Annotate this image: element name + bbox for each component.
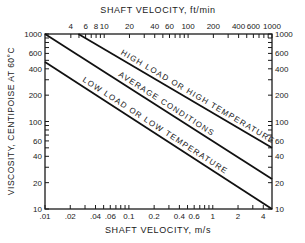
y-tick-label: 20 (33, 179, 42, 188)
y2-tick-label: 10 (275, 205, 284, 214)
x2-tick-label: 100 (181, 22, 195, 31)
x2-tick-label: 20 (125, 22, 134, 31)
x2-tick-label: 200 (207, 22, 221, 31)
x2-tick-label: 600 (247, 22, 261, 31)
y2-tick-label: 1000 (275, 30, 293, 39)
y-axis-title: VISCOSITY, CENTIPOISE AT 60°C (6, 47, 16, 195)
series-labels: HIGH LOAD OR HIGH TEMPERATUREAVERAGE CON… (81, 48, 277, 176)
x2-tick-label: 10 (100, 22, 109, 31)
series-line (45, 62, 272, 209)
y-tick-label: 100 (29, 118, 43, 127)
x-tick-label: 0.6 (189, 212, 201, 221)
x-tick-label: .06 (105, 212, 117, 221)
x-tick-label: 0.2 (149, 212, 161, 221)
x-axis-title: SHAFT VELOCITY, m/s (105, 225, 211, 235)
x-tick-label: 1 (211, 212, 216, 221)
x2-tick-label: 400 (232, 22, 246, 31)
x-axis-ticks: .01.02.04.060.10.20.40.6124 (39, 205, 266, 221)
x2-tick-label: 6 (83, 22, 88, 31)
y2-tick-label: 40 (275, 152, 284, 161)
x2-axis-title: SHAFT VELOCITY, ft/min (100, 5, 215, 15)
viscosity-velocity-chart: .01.02.04.060.10.20.40.6124 468102040601… (0, 0, 305, 243)
y-tick-label: 600 (29, 49, 43, 58)
y2-tick-label: 60 (275, 137, 284, 146)
y-tick-label: 200 (29, 91, 43, 100)
y-tick-label: 60 (33, 137, 42, 146)
y2-tick-label: 20 (275, 179, 284, 188)
x2-tick-label: 60 (165, 22, 174, 31)
y2-tick-label: 200 (275, 91, 289, 100)
x2-tick-label: 8 (94, 22, 99, 31)
x2-tick-label: 40 (150, 22, 159, 31)
y-tick-label: 40 (33, 152, 42, 161)
x-tick-label: 0.4 (174, 212, 186, 221)
x-tick-label: 2 (236, 212, 241, 221)
y-tick-label: 10 (33, 205, 42, 214)
x2-tick-label: 4 (69, 22, 74, 31)
y2-tick-label: 100 (275, 118, 289, 127)
x-tick-label: 0.1 (123, 212, 135, 221)
y-tick-label: 1000 (24, 30, 42, 39)
x-tick-label: .02 (65, 212, 77, 221)
x2-axis-ticks: 468102040601002004006001000 (69, 22, 282, 38)
x-tick-label: 4 (261, 212, 266, 221)
series-line (45, 34, 272, 179)
y2-tick-label: 400 (275, 65, 289, 74)
y-tick-label: 400 (29, 65, 43, 74)
x-tick-label: .04 (90, 212, 102, 221)
y2-tick-label: 600 (275, 49, 289, 58)
